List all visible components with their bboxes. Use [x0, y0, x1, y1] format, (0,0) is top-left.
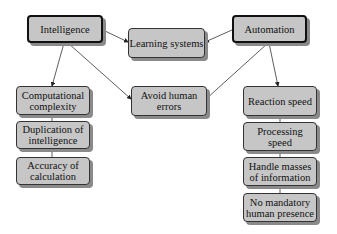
node-processing-speed: Processing speed: [243, 122, 317, 151]
node-intelligence: Intelligence: [27, 15, 103, 43]
node-no-mandatory-human-presence: No mandatory human presence: [243, 193, 317, 222]
node-computational-complexity: Computational complexity: [16, 86, 90, 115]
edge-automation-learning: [205, 30, 232, 42]
node-handle-masses-of-information: Handle masses of information: [243, 157, 317, 186]
node-reaction-speed: Reaction speed: [243, 86, 317, 116]
node-avoid-human-errors: Avoid human errors: [131, 86, 207, 116]
edge-intelligence-computational: [52, 43, 64, 86]
node-accuracy-of-calculation: Accuracy of calculation: [16, 157, 90, 185]
diagram-canvas: Intelligence Learning systems Automation…: [0, 0, 337, 234]
edge-intelligence-learning: [103, 30, 128, 42]
edge-automation-reaction: [269, 43, 278, 86]
node-duplication-of-intelligence: Duplication of intelligence: [16, 121, 90, 149]
node-automation: Automation: [232, 15, 307, 43]
node-learning-systems: Learning systems: [128, 28, 205, 58]
